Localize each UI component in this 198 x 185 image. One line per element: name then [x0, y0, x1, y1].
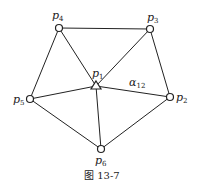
edge-p1-p4 — [59, 28, 96, 86]
label-p3: p3 — [147, 11, 159, 25]
edge-p1-p6 — [96, 86, 101, 149]
edge-p1-p3 — [96, 29, 150, 86]
edge-p4-p3 — [59, 28, 150, 29]
figure-caption: 图 13-7 — [84, 170, 120, 181]
node-p6-circle-icon — [98, 146, 105, 153]
edge-p6-p5 — [30, 99, 101, 149]
edge-p5-p4 — [30, 28, 59, 99]
label-p2: p2 — [176, 91, 188, 105]
network-diagram: p4 p3 p1 p2 p5 p6 α12 图 13-7 — [0, 0, 198, 185]
angle-label-alpha12: α12 — [129, 76, 145, 90]
edge-p3-p2 — [150, 29, 170, 97]
node-p2-circle-icon — [167, 94, 174, 101]
edge-p2-p6 — [101, 97, 170, 149]
node-p5-circle-icon — [27, 96, 34, 103]
label-p4: p4 — [52, 9, 64, 23]
edge-p1-p5 — [30, 86, 96, 99]
node-p4-circle-icon — [56, 25, 63, 32]
node-p3-circle-icon — [147, 26, 154, 33]
label-p1: p1 — [92, 67, 104, 81]
label-p6: p6 — [95, 154, 107, 168]
figure-13-7: p4 p3 p1 p2 p5 p6 α12 图 13-7 — [0, 0, 198, 185]
label-p5: p5 — [13, 93, 25, 107]
